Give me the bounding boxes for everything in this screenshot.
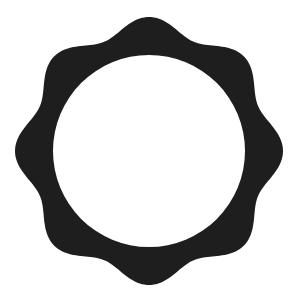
wavy-ring-shape — [0, 0, 298, 303]
ring-path — [15, 17, 283, 285]
